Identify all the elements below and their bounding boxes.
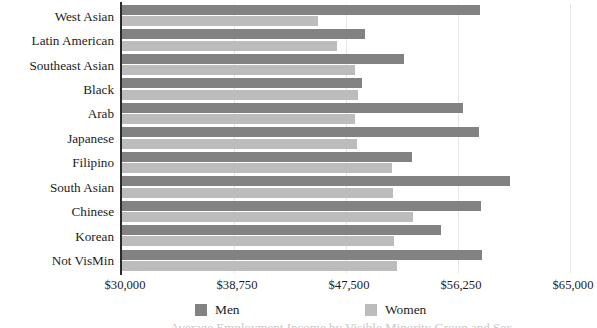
bar-group: [122, 28, 570, 52]
x-tick-label: $65,000: [553, 279, 594, 292]
bar-men: [122, 152, 412, 162]
gridline: [570, 4, 571, 273]
legend-label-women: Women: [385, 303, 426, 316]
bar-women: [122, 188, 393, 198]
bar-women: [122, 163, 392, 173]
bar-women: [122, 236, 394, 246]
plot-area: [122, 4, 570, 273]
x-tick-label: $56,250: [441, 279, 482, 292]
bar-men: [122, 176, 510, 186]
legend-item-women: Women: [365, 303, 426, 316]
bar-group: [122, 126, 570, 150]
chart-legend: Men Women: [0, 303, 597, 321]
category-label: Latin American: [0, 34, 114, 47]
bar-men: [122, 54, 404, 64]
category-label: Korean: [0, 230, 114, 243]
bar-men: [122, 5, 480, 15]
bar-men: [122, 127, 479, 137]
category-label: South Asian: [0, 181, 114, 194]
bar-men: [122, 225, 441, 235]
bar-group: [122, 102, 570, 126]
legend-swatch-women-icon: [365, 304, 377, 316]
bar-group: [122, 224, 570, 248]
category-label: Filipino: [0, 156, 114, 169]
bar-group: [122, 249, 570, 273]
category-label: Japanese: [0, 132, 114, 145]
bar-women: [122, 139, 357, 149]
bar-chart: West AsianLatin AmericanSoutheast AsianB…: [0, 0, 597, 328]
x-tick-label: $47,500: [329, 279, 370, 292]
category-label: Southeast Asian: [0, 59, 114, 72]
bar-men: [122, 201, 481, 211]
bar-women: [122, 90, 358, 100]
bar-women: [122, 114, 355, 124]
bar-group: [122, 4, 570, 28]
category-label: Arab: [0, 107, 114, 120]
bar-men: [122, 250, 482, 260]
bar-group: [122, 200, 570, 224]
legend-item-men: Men: [195, 303, 240, 316]
bar-women: [122, 41, 337, 51]
bar-women: [122, 261, 397, 271]
clipped-caption: Average Employment Income by Visible Min…: [170, 321, 590, 328]
x-tick-label: $30,000: [105, 279, 146, 292]
bar-group: [122, 151, 570, 175]
category-label: Chinese: [0, 205, 114, 218]
category-label: Black: [0, 83, 114, 96]
x-tick-label: $38,750: [217, 279, 258, 292]
bar-group: [122, 53, 570, 77]
bar-group: [122, 175, 570, 199]
legend-swatch-men-icon: [195, 304, 207, 316]
bar-men: [122, 29, 365, 39]
bar-group: [122, 77, 570, 101]
bar-women: [122, 65, 355, 75]
category-label: West Asian: [0, 10, 114, 23]
bar-women: [122, 16, 318, 26]
category-label: Not VisMin: [0, 254, 114, 267]
legend-label-men: Men: [215, 303, 240, 316]
bar-men: [122, 78, 362, 88]
bar-men: [122, 103, 463, 113]
bar-women: [122, 212, 413, 222]
